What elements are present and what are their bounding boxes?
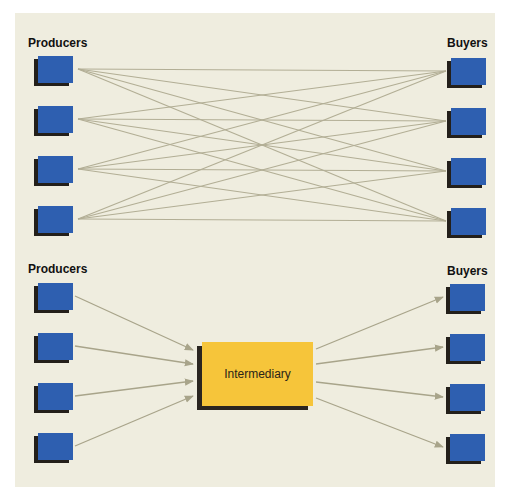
bottom-producer-node (38, 383, 73, 410)
top-buyer-node (451, 158, 486, 185)
bottom-producer-node (38, 433, 73, 460)
bottom-buyer-node (450, 334, 485, 361)
bottom-producer-node (38, 283, 73, 310)
top-buyer-node (451, 108, 486, 135)
top-buyers-label: Buyers (447, 36, 488, 50)
top-buyer-node (451, 58, 486, 85)
bottom-buyer-node (450, 384, 485, 411)
top-producer-node (38, 106, 73, 133)
bottom-buyers-label: Buyers (447, 264, 488, 278)
connection-lines (0, 0, 505, 494)
intermediary-node: Intermediary (202, 342, 313, 406)
top-producers-label: Producers (28, 36, 87, 50)
bottom-buyer-node (450, 434, 485, 461)
bottom-producer-node (38, 333, 73, 360)
top-producer-node (38, 206, 73, 233)
mesh-lines (78, 69, 446, 221)
bottom-producers-label: Producers (28, 262, 87, 276)
bottom-buyer-node (450, 284, 485, 311)
intermediary-label: Intermediary (224, 367, 291, 381)
top-producer-node (38, 156, 73, 183)
top-buyer-node (451, 208, 486, 235)
top-producer-node (38, 56, 73, 83)
